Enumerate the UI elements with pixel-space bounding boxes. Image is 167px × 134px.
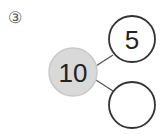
number-bond-diagram: 10 5: [0, 0, 167, 134]
part-bottom-circle[interactable]: [109, 82, 155, 128]
connector-top: [96, 55, 113, 66]
whole-value: 10: [59, 58, 88, 88]
connector-bottom: [96, 80, 113, 91]
part-top-value: 5: [125, 25, 139, 55]
